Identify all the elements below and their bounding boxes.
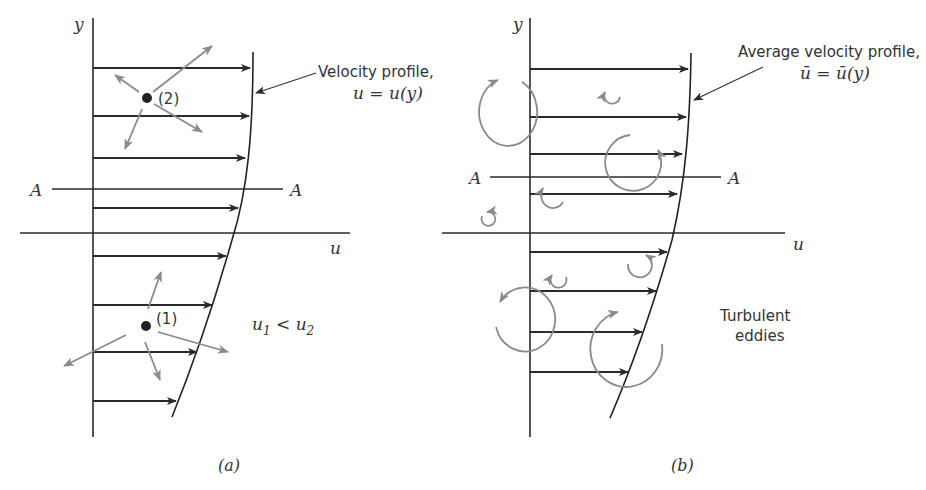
y-axis-label: y	[73, 14, 84, 34]
u-axis-label: u	[330, 238, 341, 258]
eddy-icon	[628, 255, 652, 277]
u-axis-label: u	[793, 234, 804, 254]
profile-label-line1: Average velocity profile,	[738, 43, 920, 61]
particle-dot	[142, 93, 152, 103]
eddies-label-line2: eddies	[735, 327, 785, 345]
turbulence-diagram: y u A A Velocity profile, u = u(y) (2)	[0, 0, 926, 490]
eddy-icon	[496, 287, 555, 351]
profile-leader-line	[256, 73, 316, 93]
eddy-icon	[590, 312, 662, 387]
eddy-icon	[605, 135, 661, 191]
caption-a: (a)	[218, 456, 240, 475]
fluid-particle-1: (1)	[64, 272, 228, 380]
plane-label-right: A	[288, 180, 302, 200]
velocity-profile-curve	[172, 52, 253, 417]
profile-label-line2: u = u(y)	[353, 83, 423, 103]
eddy-icon	[604, 92, 620, 104]
velocity-inequality: u1 < u2	[252, 314, 314, 338]
eddy-icon	[479, 80, 537, 146]
particle-dot	[141, 321, 151, 331]
y-axis-label: y	[512, 14, 523, 34]
eddies-label-line1: Turbulent	[719, 307, 790, 325]
plane-label-left: A	[467, 168, 481, 188]
eddy-icon	[541, 188, 563, 208]
plane-label-right: A	[726, 168, 740, 188]
panel-b: y u A A Average velocity profile, ū = ū(…	[442, 14, 920, 475]
panel-a: y u A A Velocity profile, u = u(y) (2)	[20, 14, 434, 475]
eddy-icon	[550, 275, 566, 288]
profile-leader-line	[694, 67, 763, 100]
profile-label-line2: ū = ū(y)	[800, 63, 870, 83]
point-2-label: (2)	[158, 90, 179, 108]
point-1-label: (1)	[156, 310, 177, 328]
caption-b: (b)	[671, 456, 694, 475]
eddy-icon	[481, 212, 495, 226]
average-velocity-profile-curve	[610, 53, 691, 418]
plane-label-left: A	[28, 180, 42, 200]
profile-label-line1: Velocity profile,	[318, 63, 434, 81]
fluid-particle-2: (2)	[115, 46, 212, 149]
